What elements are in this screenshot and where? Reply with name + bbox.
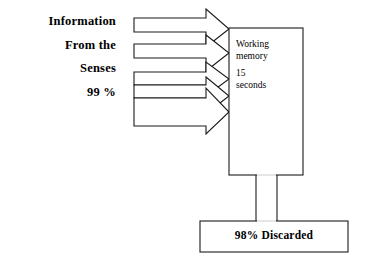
working-memory-line-4: seconds — [236, 79, 300, 91]
discarded-label: 98% Discarded — [200, 228, 348, 242]
working-memory-line-1: Working — [236, 38, 300, 50]
working-memory-label: Working memory 15 seconds — [236, 38, 300, 92]
information-processing-diagram: Information From the Senses 99 % Working… — [0, 0, 366, 267]
working-memory-line-2: memory — [236, 50, 300, 62]
source-label-line-3: Senses — [4, 57, 116, 81]
source-label-line-1: Information — [4, 10, 116, 34]
working-memory-line-3: 15 — [236, 67, 300, 79]
source-label-line-2: From the — [4, 34, 116, 58]
source-label-percentage: 99 % — [4, 81, 116, 105]
source-label: Information From the Senses 99 % — [4, 10, 116, 104]
